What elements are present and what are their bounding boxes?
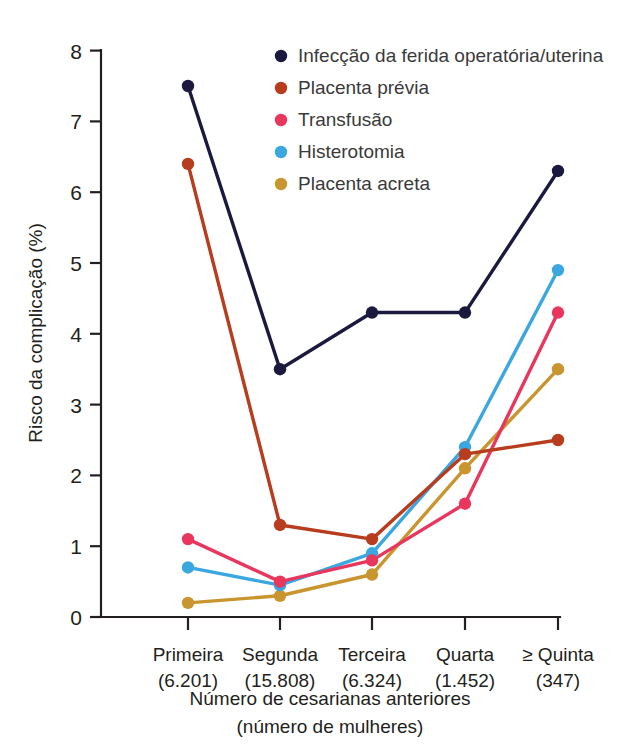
data-point	[552, 165, 564, 177]
legend-label-0: Infecção da ferida operatória/uterina	[298, 45, 604, 66]
y-tick-label-4: 4	[70, 323, 82, 346]
data-point	[552, 363, 564, 375]
data-point	[182, 80, 194, 92]
data-point	[459, 498, 471, 510]
y-tick-label-7: 7	[70, 110, 82, 133]
data-point	[459, 448, 471, 460]
legend-label-1: Placenta prévia	[298, 77, 429, 98]
series-line-1	[188, 164, 558, 539]
y-tick-label-5: 5	[70, 252, 82, 275]
y-tick-label-1: 1	[70, 535, 82, 558]
x-category-label-0: Primeira	[153, 644, 224, 665]
x-category-labels: Primeira(6.201)Segunda(15.808)Terceira(6…	[153, 644, 595, 691]
legend-label-4: Placenta acreta	[298, 173, 430, 194]
x-category-label-4: ≥ Quinta	[522, 644, 594, 665]
x-category-label-1: Segunda	[242, 644, 319, 665]
y-axis-title: Risco da complicação (%)	[25, 223, 46, 443]
legend-marker-3	[275, 146, 287, 158]
data-point	[366, 533, 378, 545]
y-tick-label-2: 2	[70, 464, 82, 487]
legend-marker-0	[275, 50, 287, 62]
x-category-label-2: Terceira	[338, 644, 406, 665]
data-point	[459, 306, 471, 318]
data-point	[552, 264, 564, 276]
legend-marker-2	[275, 114, 287, 126]
x-axis-subtitle: (número de mulheres)	[237, 716, 424, 737]
y-tick-labels: 012345678	[70, 40, 82, 629]
data-point	[366, 568, 378, 580]
data-point	[274, 519, 286, 531]
data-point	[182, 533, 194, 545]
data-point	[182, 561, 194, 573]
y-tick-label-6: 6	[70, 181, 82, 204]
data-point	[182, 158, 194, 170]
x-category-label-3: Quarta	[436, 644, 495, 665]
line-chart: 012345678 Primeira(6.201)Segunda(15.808)…	[0, 0, 634, 748]
chart-container: 012345678 Primeira(6.201)Segunda(15.808)…	[0, 0, 634, 748]
y-tick-label-0: 0	[70, 606, 82, 629]
x-axis-ticks	[188, 617, 558, 630]
data-point	[182, 597, 194, 609]
legend-label-3: Histerotomia	[298, 141, 405, 162]
y-tick-label-3: 3	[70, 394, 82, 417]
x-axis-title: Número de cesarianas anteriores	[190, 688, 471, 709]
series-line-4	[188, 369, 558, 603]
legend-marker-1	[275, 82, 287, 94]
y-tick-label-8: 8	[70, 40, 82, 63]
data-point	[552, 434, 564, 446]
data-point	[459, 462, 471, 474]
legend-label-2: Transfusão	[298, 109, 392, 130]
x-category-count-4: (347)	[536, 670, 580, 691]
data-point	[366, 306, 378, 318]
y-axis-ticks	[90, 51, 101, 617]
data-point	[274, 590, 286, 602]
legend-marker-4	[275, 178, 287, 190]
data-point	[366, 554, 378, 566]
data-point	[552, 306, 564, 318]
data-point	[274, 575, 286, 587]
data-point	[274, 363, 286, 375]
